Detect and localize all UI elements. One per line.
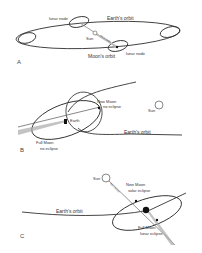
panel-b: New Moon no eclipse Sun Earth Earth's or…: [18, 82, 182, 153]
moon-orbit-ellipse-2: [63, 89, 105, 135]
sun-icon: [93, 31, 97, 35]
label-earth: Earth: [70, 118, 80, 123]
earth-orbit-curve: [68, 82, 136, 112]
shadow-cone: [18, 120, 66, 135]
label-moon-orbit: Moon's orbit: [88, 53, 116, 59]
earth-orbit-curve: [22, 193, 186, 216]
label-full-moon-sub: no eclipse: [40, 146, 59, 151]
sun-icon: [155, 101, 163, 109]
sun-icon: [102, 174, 110, 182]
earth-icon: [116, 46, 118, 48]
new-moon-dot: [135, 200, 137, 202]
panel-letter-a: A: [17, 59, 21, 65]
label-sun: Sun: [93, 176, 100, 181]
label-lunar-node-top: lunar node: [49, 16, 69, 21]
label-earth-orbit: Earth's orbit: [56, 208, 83, 214]
label-earth-orbit: Earth's orbit: [124, 129, 151, 135]
shadow-band: [96, 34, 117, 47]
sun-earth-line: [18, 107, 100, 127]
label-new-moon-sub: solar eclipse: [128, 188, 151, 193]
earth-icon: [64, 119, 67, 124]
eclipse-diagram: lunar node Earth's orbit Sun line of nod…: [0, 0, 202, 253]
panel-c: Sun line of nodes New Moon solar eclipse…: [20, 174, 186, 245]
label-line-of-nodes: line of nodes: [110, 183, 121, 194]
panel-a: lunar node Earth's orbit Sun line of nod…: [15, 15, 181, 65]
label-sun: Sun: [86, 36, 93, 41]
moon-orbit-right: [159, 25, 181, 40]
label-new-moon: New Moon: [126, 182, 145, 187]
label-full-moon: Full Moon: [138, 225, 156, 230]
label-earth-orbit: Earth's orbit: [107, 15, 134, 21]
panel-letter-c: C: [20, 233, 25, 239]
panel-letter-b: B: [20, 147, 24, 153]
new-moon-dot: [98, 107, 100, 109]
label-sun: Sun: [148, 108, 155, 113]
full-moon-dot: [156, 219, 158, 221]
label-full-moon: Full Moon: [36, 140, 54, 145]
label-lunar-node-bottom: lunar node: [126, 51, 146, 56]
label-new-moon-sub: no eclipse: [103, 104, 122, 109]
earth-icon: [143, 207, 149, 213]
label-full-moon-sub: lunar eclipse: [140, 231, 163, 236]
